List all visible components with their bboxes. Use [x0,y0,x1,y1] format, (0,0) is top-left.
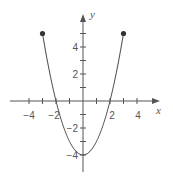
y-tick-label: 2 [72,69,78,80]
y-axis-label: y [89,8,95,20]
parabola-chart: −4 −2 2 4 4 2 −2 −4 x y [0,0,173,180]
x-tick-label: 2 [109,110,115,121]
x-tick-label: 4 [135,110,141,121]
right-endpoint-dot [121,31,126,36]
left-endpoint-dot [40,31,45,36]
x-axis-label: x [155,104,161,116]
y-axis-arrow-icon [80,14,86,22]
y-tick-label: 4 [72,42,78,53]
y-tick-label: −2 [67,123,79,134]
x-tick-label: −4 [23,110,35,121]
